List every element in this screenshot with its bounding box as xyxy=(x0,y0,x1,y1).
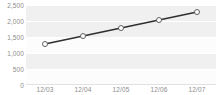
data-series xyxy=(26,5,216,85)
y-axis-tick-label: 500 xyxy=(0,66,24,73)
x-axis-tick-label: 12/07 xyxy=(179,86,215,94)
y-axis-tick-label: 2,500 xyxy=(0,2,24,9)
x-axis-tick-label: 12/05 xyxy=(103,86,139,94)
line-chart: 05001,0001,5002,0002,500 12/0312/0412/05… xyxy=(0,0,219,95)
plot-area xyxy=(26,5,216,85)
x-axis-tick-label: 12/03 xyxy=(27,86,63,94)
data-point-marker[interactable] xyxy=(157,18,162,23)
x-axis: 12/0312/0412/0512/0612/07 xyxy=(26,85,216,95)
y-axis-tick-label: 1,000 xyxy=(0,50,24,57)
data-point-marker[interactable] xyxy=(43,42,48,47)
data-point-marker[interactable] xyxy=(195,10,200,15)
y-axis-tick-label: 1,500 xyxy=(0,34,24,41)
x-axis-tick-label: 12/06 xyxy=(141,86,177,94)
y-axis-tick-label: 2,000 xyxy=(0,18,24,25)
y-axis: 05001,0001,5002,0002,500 xyxy=(0,0,24,95)
y-axis-tick-label: 0 xyxy=(0,82,24,89)
x-axis-tick-label: 12/04 xyxy=(65,86,101,94)
data-point-marker[interactable] xyxy=(81,34,86,39)
data-point-marker[interactable] xyxy=(119,26,124,31)
